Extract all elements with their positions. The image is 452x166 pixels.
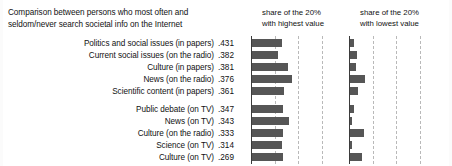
category-value: .333 [218, 128, 244, 139]
category-label: Politics and social issues (in papers) [0, 38, 214, 49]
category-value: .343 [218, 116, 244, 127]
category-label: Scientific content (in papers) [0, 86, 214, 97]
category-row: Science (on TV).314 [0, 140, 452, 151]
category-value: .381 [218, 62, 244, 73]
plot-area: Politics and social issues (in papers).4… [0, 36, 452, 164]
chart-title: Comparison between persons who most ofte… [8, 7, 240, 30]
chart-title-line-1: Comparison between persons who most ofte… [8, 7, 240, 19]
category-row: Culture (on TV).269 [0, 152, 452, 163]
panel-caption-lowest-line-2: with lowest value [360, 18, 419, 29]
category-row: Current social issues (on the radio).382 [0, 50, 452, 61]
category-value: .382 [218, 50, 244, 61]
panel-caption-highest-line-1: share of the 20% [262, 7, 324, 18]
category-label: News (on the radio) [0, 74, 214, 85]
category-value: .376 [218, 74, 244, 85]
panel-caption-highest: share of the 20% with highest value [262, 7, 324, 29]
category-row: Public debate (on TV).347 [0, 104, 452, 115]
category-row: News (on the radio).376 [0, 74, 452, 85]
category-row: Culture (in papers).381 [0, 62, 452, 73]
category-value: .314 [218, 140, 244, 151]
category-label: Science (on TV) [0, 140, 214, 151]
category-label: Current social issues (on the radio) [0, 50, 214, 61]
category-value: .431 [218, 38, 244, 49]
panel-caption-highest-line-2: with highest value [262, 18, 324, 29]
category-label: Culture (on TV) [0, 152, 214, 163]
category-row: Scientific content (in papers).361 [0, 86, 452, 97]
category-value: .361 [218, 86, 244, 97]
category-row: Culture (on the radio).333 [0, 128, 452, 139]
category-label: News (on TV) [0, 116, 214, 127]
panel-caption-lowest: share of the 20% with lowest value [360, 7, 419, 29]
category-row: News (on TV).343 [0, 116, 452, 127]
chart-title-line-2: seldom/never search societal info on the… [8, 19, 240, 31]
category-label: Public debate (on TV) [0, 104, 214, 115]
category-row: Politics and social issues (in papers).4… [0, 38, 452, 49]
category-label: Culture (on the radio) [0, 128, 214, 139]
category-value: .269 [218, 152, 244, 163]
category-value: .347 [218, 104, 244, 115]
category-label: Culture (in papers) [0, 62, 214, 73]
panel-caption-lowest-line-1: share of the 20% [360, 7, 419, 18]
